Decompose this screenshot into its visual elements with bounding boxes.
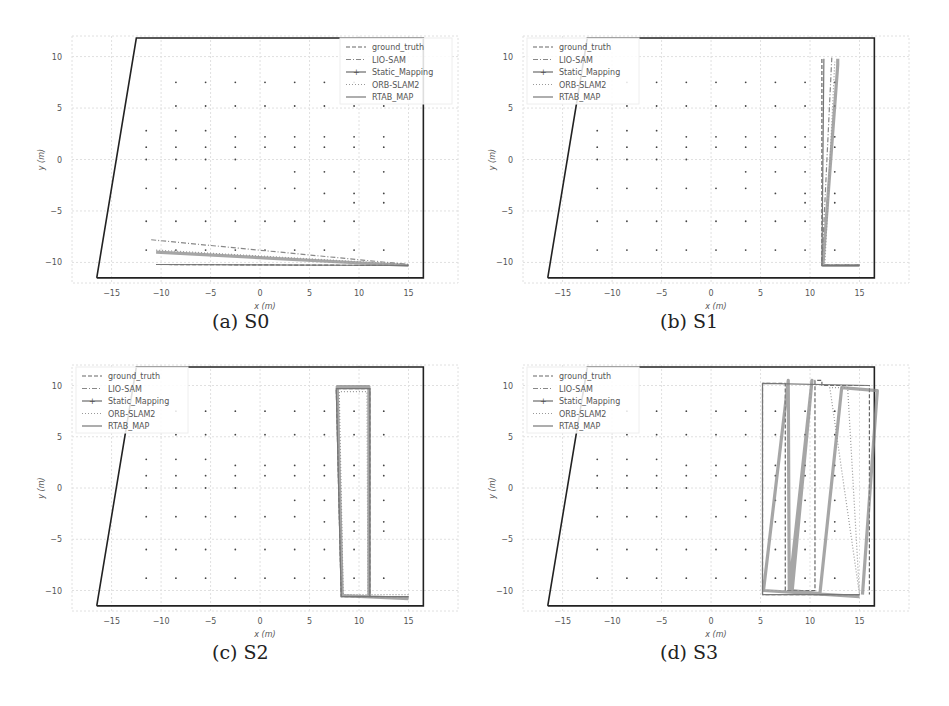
x-tick-label: 0 [709, 289, 714, 298]
landmark-point [234, 577, 236, 579]
landmark-point [264, 81, 266, 83]
x-tick-label: 5 [307, 617, 312, 626]
y-axis-label: y (m) [488, 149, 497, 171]
landmark-point [626, 549, 628, 551]
landmark-point [264, 410, 266, 412]
landmark-point [804, 146, 806, 148]
landmark-point [145, 516, 147, 518]
legend-label: LIO-SAM [108, 385, 142, 394]
x-tick-label: 15 [403, 617, 413, 626]
landmark-point [383, 434, 385, 436]
landmark-point [264, 136, 266, 138]
legend-label: Static_Mapping [108, 397, 169, 406]
y-tick-label: −10 [45, 587, 62, 596]
legend-label: ground_truth [372, 43, 424, 52]
legend-label: RTAB_MAP [108, 422, 150, 431]
y-tick-label: 10 [52, 382, 62, 391]
x-tick-label: −10 [153, 617, 170, 626]
landmark-point [175, 458, 177, 460]
y-tick-label: −10 [45, 258, 62, 267]
landmark-point [745, 249, 747, 251]
legend-label: Static_Mapping [559, 68, 620, 77]
x-tick-label: 10 [354, 289, 364, 298]
landmark-point [804, 171, 806, 173]
landmark-point [804, 81, 806, 83]
landmark-point [234, 81, 236, 83]
landmark-point [234, 434, 236, 436]
landmark-point [175, 105, 177, 107]
y-tick-label: −5 [50, 535, 62, 544]
landmark-point [234, 136, 236, 138]
landmark-point [834, 499, 836, 501]
landmark-point [745, 136, 747, 138]
landmark-point [353, 475, 355, 477]
landmark-point [685, 249, 687, 251]
landmark-point [234, 465, 236, 467]
landmark-point [353, 220, 355, 222]
landmark-point [656, 187, 658, 189]
y-tick-label: 10 [503, 382, 513, 391]
y-tick-label: 0 [57, 156, 62, 165]
landmark-point [656, 105, 658, 107]
landmark-point [715, 410, 717, 412]
caption-d: (d) S3 [660, 641, 718, 663]
legend-marker: + [89, 397, 96, 406]
landmark-point [774, 465, 776, 467]
trajectory-lio-sam [822, 58, 860, 265]
landmark-point [715, 465, 717, 467]
landmark-point [264, 465, 266, 467]
landmark-point [596, 146, 598, 148]
landmark-point [264, 577, 266, 579]
landmark-point [175, 577, 177, 579]
landmark-point [656, 516, 658, 518]
x-tick-label: 10 [805, 617, 815, 626]
landmark-point [656, 487, 658, 489]
landmark-point [745, 171, 747, 173]
landmark-point [323, 475, 325, 477]
legend-label: ORB-SLAM2 [559, 410, 606, 419]
x-tick-label: −5 [205, 289, 217, 298]
landmark-point [804, 249, 806, 251]
landmark-point [834, 202, 836, 204]
panel-d: −15−10−50510151050−5−10x (m)y (m)ground_… [475, 353, 949, 706]
landmark-point [745, 465, 747, 467]
landmark-point [294, 465, 296, 467]
landmark-point [353, 530, 355, 532]
landmark-point [353, 499, 355, 501]
landmark-point [175, 159, 177, 161]
landmark-point [264, 220, 266, 222]
landmark-point [626, 249, 628, 251]
landmark-point [596, 487, 598, 489]
landmark-point [685, 516, 687, 518]
panel-c: −15−10−50510151050−5−10x (m)y (m)ground_… [0, 353, 474, 706]
landmark-point [383, 475, 385, 477]
landmark-point [804, 499, 806, 501]
landmark-point [745, 410, 747, 412]
landmark-point [353, 434, 355, 436]
panel-a: −15−10−50510151050−5−10x (m)y (m)ground_… [0, 0, 474, 353]
landmark-point [383, 465, 385, 467]
landmark-point [745, 549, 747, 551]
landmark-point [596, 475, 598, 477]
landmark-point [175, 146, 177, 148]
landmark-point [596, 577, 598, 579]
landmark-point [323, 434, 325, 436]
landmark-point [656, 130, 658, 132]
landmark-point [774, 521, 776, 523]
landmark-point [804, 410, 806, 412]
landmark-point [323, 410, 325, 412]
landmark-point [626, 159, 628, 161]
landmark-point [596, 159, 598, 161]
y-axis-label: y (m) [37, 149, 46, 171]
landmark-point [626, 187, 628, 189]
legend-label: ground_truth [559, 43, 611, 52]
y-tick-label: −5 [501, 207, 513, 216]
landmark-point [234, 105, 236, 107]
y-tick-label: 0 [508, 484, 513, 493]
trajectory-static-mapping [764, 380, 878, 596]
landmark-point [834, 136, 836, 138]
landmark-point [294, 475, 296, 477]
landmark-point [383, 171, 385, 173]
landmark-point [383, 136, 385, 138]
x-tick-label: 5 [758, 617, 763, 626]
